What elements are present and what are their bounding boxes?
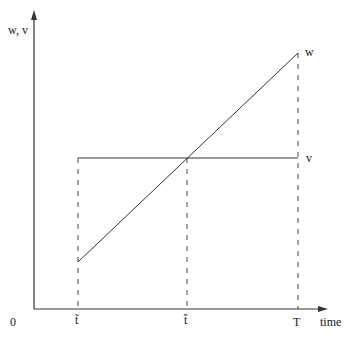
tick-label-T: T — [293, 316, 300, 328]
y-axis-label: w, v — [8, 24, 28, 36]
x-axis-label: time — [320, 316, 341, 328]
chart-canvas — [0, 0, 354, 340]
origin-label: 0 — [10, 316, 16, 328]
series-label-v: v — [306, 152, 312, 164]
tick-label-t1: t̃ — [75, 314, 78, 326]
tick-label-t2: t̂ — [184, 314, 187, 326]
x-axis-arrow-icon — [318, 306, 328, 312]
series-label-w: w — [305, 46, 314, 58]
y-axis-arrow-icon — [31, 10, 37, 20]
